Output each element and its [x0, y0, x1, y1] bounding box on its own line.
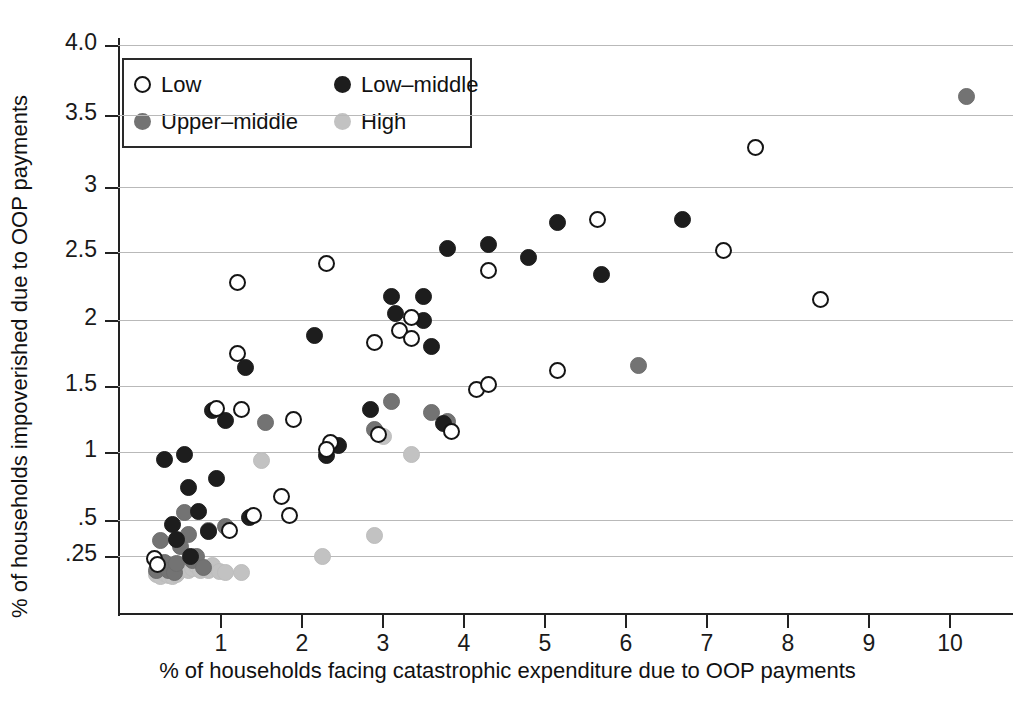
- data-point: [180, 479, 197, 496]
- data-point: [229, 345, 246, 362]
- legend-marker-icon: [334, 76, 351, 93]
- x-tick-label: 4: [458, 630, 471, 657]
- data-point: [480, 236, 497, 253]
- data-point: [233, 401, 250, 418]
- data-point: [480, 376, 497, 393]
- legend-item-low[interactable]: Low: [134, 72, 334, 98]
- data-point: [383, 393, 400, 410]
- data-point: [253, 452, 270, 469]
- y-tick-label: 4.0: [65, 29, 97, 56]
- data-point: [747, 139, 764, 156]
- legend-item-uppermid[interactable]: Upper–middle: [134, 109, 334, 135]
- y-tick-label: 1: [84, 436, 97, 463]
- y-tick-label: .5: [78, 504, 97, 531]
- data-point: [314, 548, 331, 565]
- x-tick-label: 10: [937, 630, 963, 657]
- data-point: [674, 211, 691, 228]
- y-axis-title: % of households impoverished due to OOP …: [0, 0, 40, 713]
- x-tick-label: 7: [701, 630, 714, 657]
- x-tick-label: 8: [782, 630, 795, 657]
- legend-label: Upper–middle: [161, 109, 298, 135]
- y-tick-mark: [105, 556, 118, 558]
- data-point: [221, 522, 238, 539]
- gridline: [118, 452, 1013, 453]
- y-tick-label: 2: [84, 304, 97, 331]
- y-tick-mark: [105, 187, 118, 189]
- gridline: [118, 252, 1013, 253]
- y-tick-label: 3: [84, 171, 97, 198]
- data-point: [217, 564, 234, 581]
- data-point: [190, 503, 207, 520]
- data-point: [168, 531, 185, 548]
- x-tick-label: 1: [215, 630, 228, 657]
- data-point: [149, 556, 166, 573]
- x-tick-mark: [625, 615, 627, 628]
- x-tick-label: 6: [620, 630, 633, 657]
- data-point: [630, 357, 647, 374]
- y-tick-mark: [105, 452, 118, 454]
- x-axis-line: [118, 613, 1013, 615]
- legend-label: Low–middle: [361, 72, 478, 98]
- x-tick-mark: [382, 615, 384, 628]
- y-tick-mark: [105, 320, 118, 322]
- data-point: [318, 441, 335, 458]
- legend-label: Low: [161, 72, 201, 98]
- data-point: [366, 334, 383, 351]
- data-point: [403, 330, 420, 347]
- data-point: [152, 532, 169, 549]
- data-point: [318, 255, 335, 272]
- legend: LowLow–middleUpper–middleHigh: [122, 58, 472, 148]
- x-tick-mark: [868, 615, 870, 628]
- x-tick-mark: [544, 615, 546, 628]
- y-tick-mark: [105, 45, 118, 47]
- chart-root: % of households impoverished due to OOP …: [0, 0, 1015, 713]
- x-tick-mark: [463, 615, 465, 628]
- data-point: [182, 548, 199, 565]
- data-point: [589, 211, 606, 228]
- data-point: [958, 88, 975, 105]
- x-axis-title: % of households facing catastrophic expe…: [0, 658, 1015, 684]
- data-point: [549, 362, 566, 379]
- gridline: [118, 115, 1013, 116]
- legend-label: High: [361, 109, 406, 135]
- data-point: [306, 327, 323, 344]
- data-point: [383, 288, 400, 305]
- y-tick-mark: [105, 520, 118, 522]
- x-tick-mark: [706, 615, 708, 628]
- data-point: [715, 242, 732, 259]
- gridline: [118, 556, 1013, 557]
- gridline: [118, 45, 1013, 46]
- data-point: [403, 309, 420, 326]
- data-point: [812, 291, 829, 308]
- data-point: [156, 451, 173, 468]
- y-tick-mark: [105, 115, 118, 117]
- x-tick-label: 2: [296, 630, 309, 657]
- x-tick-label: 9: [863, 630, 876, 657]
- y-tick-mark: [105, 252, 118, 254]
- y-tick-label: 3.5: [65, 99, 97, 126]
- x-tick-mark: [787, 615, 789, 628]
- gridline: [118, 386, 1013, 387]
- y-tick-label: 1.5: [65, 370, 97, 397]
- legend-marker-icon: [134, 76, 151, 93]
- y-tick-label: .25: [65, 540, 97, 567]
- y-tick-label: 2.5: [65, 236, 97, 263]
- data-point: [229, 274, 246, 291]
- gridline: [118, 320, 1013, 321]
- legend-item-lowmid[interactable]: Low–middle: [334, 72, 484, 98]
- x-tick-mark: [949, 615, 951, 628]
- x-tick-label: 3: [377, 630, 390, 657]
- x-tick-label: 5: [539, 630, 552, 657]
- x-tick-mark: [220, 615, 222, 628]
- x-tick-mark: [301, 615, 303, 628]
- gridline: [118, 187, 1013, 188]
- data-point: [233, 564, 250, 581]
- y-tick-mark: [105, 386, 118, 388]
- data-point: [387, 305, 404, 322]
- legend-item-high[interactable]: High: [334, 109, 484, 135]
- data-point: [549, 214, 566, 231]
